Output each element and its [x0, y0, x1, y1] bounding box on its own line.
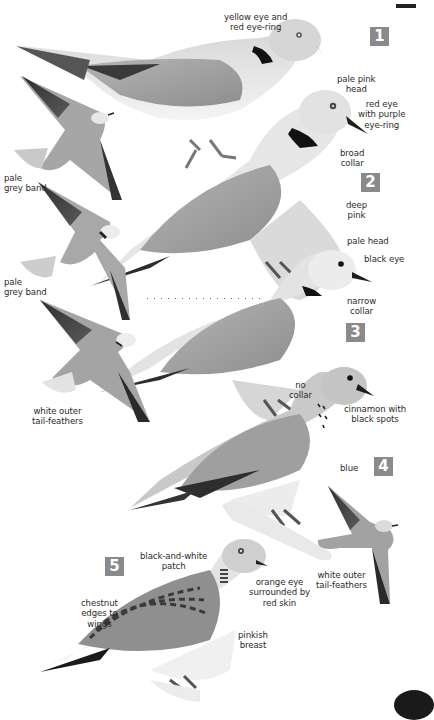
label-species5-eye: orange eye surrounded by red skin — [249, 577, 310, 608]
flight-bird-2 — [20, 182, 130, 320]
label-species2-head: pale pink head — [337, 74, 376, 95]
species-badge-3: 3 — [346, 323, 365, 342]
species-badge-1: 1 — [370, 27, 389, 46]
label-species3-collar: narrow collar — [347, 296, 376, 317]
label-species4-neck: cinnamon with black spots — [344, 404, 406, 425]
label-species5-breast: pinkish breast — [238, 630, 268, 651]
species-badge-2: 2 — [361, 173, 380, 192]
label-flight4-tail: white outer tail-feathers — [316, 570, 367, 591]
label-species5-patch: black-and-white patch — [140, 551, 207, 572]
label-species4-collar: no collar — [289, 380, 312, 401]
flight-bird-3 — [40, 300, 150, 422]
species-badge-4: 4 — [374, 457, 393, 476]
label-flight2-band: pale grey band — [4, 277, 47, 298]
label-species3-eye: black eye — [364, 254, 404, 264]
label-species2-collar: broad collar — [340, 148, 364, 169]
label-species2-body: deep pink — [346, 200, 367, 221]
label-flight3-tail: white outer tail-feathers — [32, 406, 83, 427]
label-species4-body: blue — [340, 463, 358, 473]
label-flight1-band: pale grey band — [4, 173, 47, 194]
label-species5-wings: chestnut edges to wings — [81, 598, 118, 629]
species-badge-5: 5 — [105, 557, 124, 576]
label-species2-eye: red eye with purple eye-ring — [358, 99, 405, 130]
dotted-divider — [144, 297, 264, 300]
page-corner-tab — [394, 690, 434, 720]
label-species1-eye: yellow eye and red eye-ring — [224, 12, 287, 33]
page-edge-bar — [396, 4, 416, 8]
label-species3-head: pale head — [347, 236, 389, 246]
